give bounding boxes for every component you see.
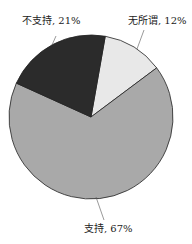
label-neutral: 无所谓, 12% [128,15,187,26]
label-support: 支持, 67% [84,222,133,234]
pie-chart: 不支持, 21% 无所谓, 12% 支持, 67% [0,0,192,244]
leader-line-neutral [137,30,144,49]
leader-line-support [96,197,104,220]
pie-slices [9,35,173,199]
label-oppose: 不支持, 21% [22,14,81,26]
